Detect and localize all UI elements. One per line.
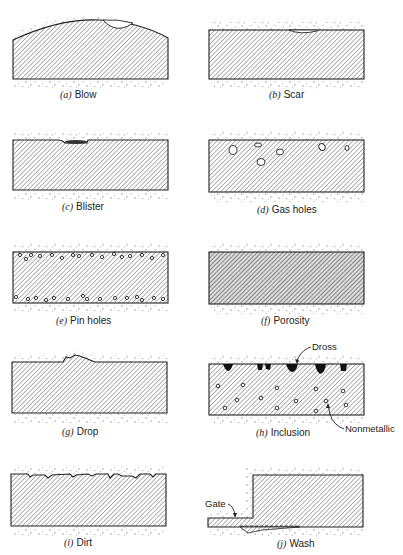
callout-gate: Gate [205, 498, 226, 509]
panel-dirt: (i)Dirt [11, 466, 166, 549]
caption-blister: (c)Blister [62, 201, 105, 213]
sand-band-bottom [211, 193, 364, 202]
panel-porosity: (f)Porosity [209, 244, 364, 327]
panel-gas-holes: (d)Gas holes [209, 132, 364, 216]
sand-band-top [14, 244, 168, 252]
caption-drop: (g)Drop [62, 426, 99, 438]
caption-scar: (b)Scar [269, 89, 305, 101]
casting-body [11, 474, 166, 526]
sand-band-top [13, 466, 166, 474]
casting-body [13, 252, 168, 303]
caption-gas-holes: (d)Gas holes [257, 204, 317, 216]
casting-body-with-gate [208, 475, 363, 527]
panel-scar: (b)Scar [209, 22, 364, 101]
sand-band-bottom [208, 528, 364, 537]
panel-blister: (c)Blister [13, 133, 168, 213]
sand-band-top [14, 133, 168, 140]
panel-pin-holes: (e)Pin holes [13, 244, 168, 327]
sand-band-bottom [13, 527, 166, 536]
sand-band-top [211, 244, 364, 252]
sand-band-bottom [14, 304, 168, 313]
casting-body [13, 140, 168, 190]
casting-body [209, 30, 364, 79]
panel-wash: Gate (j)Wash [205, 468, 364, 550]
caption-inclusion: (h)Inclusion [256, 427, 310, 439]
sand-band-bottom [211, 305, 364, 314]
panel-inclusion: Dross Nonmetallic (h)Inclusion [209, 341, 395, 439]
sand-band-top [211, 22, 364, 30]
sand-band-bottom [14, 191, 168, 200]
callout-nonmetallic: Nonmetallic [345, 423, 395, 434]
caption-pin-holes: (e)Pin holes [56, 315, 111, 327]
sand-band-bottom [211, 80, 364, 89]
caption-blow: (a)Blow [60, 89, 97, 101]
callout-dross: Dross [312, 341, 337, 352]
panel-drop: (g)Drop [12, 352, 168, 439]
casting-body-porous [209, 252, 364, 304]
casting-body [209, 364, 364, 415]
casting-body [12, 355, 167, 413]
caption-wash: (j)Wash [277, 538, 315, 550]
sand-band-bottom [14, 414, 168, 423]
sand-band-bottom [211, 416, 364, 425]
caption-porosity: (f)Porosity [261, 315, 310, 327]
caption-dirt: (i)Dirt [64, 537, 92, 549]
panel-blow: (a)Blow [13, 17, 168, 101]
sand-band-top [211, 132, 364, 140]
sand-band-bottom [14, 80, 166, 89]
sand-band-top [211, 356, 364, 364]
casting-defects-figure: (a)Blow (b)Scar (c)Blister (d)Gas holes [0, 0, 403, 555]
